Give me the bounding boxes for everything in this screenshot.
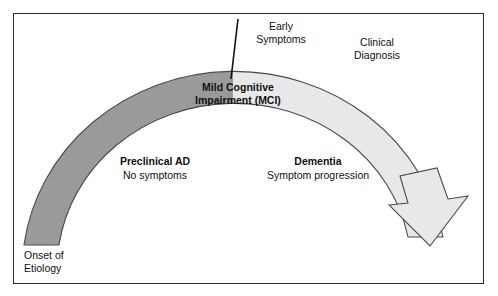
label-early-symptoms: Early Symptoms [256, 20, 306, 46]
arrowhead-icon [389, 168, 468, 246]
stage-dementia-title: Dementia [267, 155, 369, 169]
label-onset-of-etiology: Onset of Etiology [24, 249, 64, 275]
label-early-symptoms-line2: Symptoms [256, 33, 306, 45]
label-mci-line1: Mild Cognitive [202, 81, 274, 93]
label-mild-cognitive-impairment: Mild Cognitive Impairment (MCI) [195, 81, 281, 107]
label-clinical-diagnosis-line2: Diagnosis [354, 49, 400, 61]
stage-preclinical-ad-subtitle: No symptoms [120, 169, 190, 183]
figure-root: Early Symptoms Clinical Diagnosis Mild C… [0, 0, 498, 296]
label-early-symptoms-line1: Early [269, 20, 293, 32]
label-onset-line1: Onset of [24, 249, 64, 261]
stage-preclinical-ad-title: Preclinical AD [120, 155, 190, 169]
label-onset-line2: Etiology [24, 262, 61, 274]
label-mci-line2: Impairment (MCI) [195, 94, 281, 106]
stage-dementia: Dementia Symptom progression [267, 155, 369, 182]
continuum-arc-graphic [0, 0, 498, 296]
label-clinical-diagnosis: Clinical Diagnosis [354, 36, 400, 62]
mci-tick-marker [231, 19, 238, 79]
label-clinical-diagnosis-line1: Clinical [360, 36, 394, 48]
stage-dementia-subtitle: Symptom progression [267, 169, 369, 183]
stage-preclinical-ad: Preclinical AD No symptoms [120, 155, 190, 182]
